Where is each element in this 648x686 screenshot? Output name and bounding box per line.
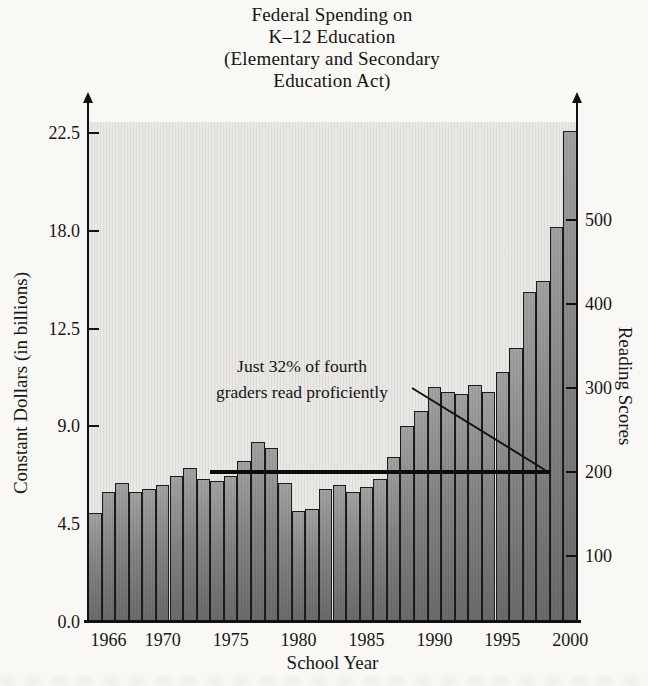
left-axis-arrow-icon xyxy=(83,92,93,103)
left-axis-tick-label-22.5: 22.5 xyxy=(14,122,80,144)
bar-2000 xyxy=(563,131,577,622)
x-axis-label-1990: 1990 xyxy=(404,629,464,651)
bar-1971 xyxy=(170,476,184,622)
bar-1978 xyxy=(265,448,279,622)
bar-1986 xyxy=(373,479,387,622)
bar-1983 xyxy=(333,485,347,622)
bar-1984 xyxy=(346,492,360,622)
right-axis-tick-300 xyxy=(566,387,577,389)
annotation-line-1: Just 32% of fourth xyxy=(187,353,417,379)
reading-scores-line xyxy=(210,470,550,474)
x-axis-label-1966: 1966 xyxy=(78,629,138,651)
bar-1999 xyxy=(550,227,564,622)
x-axis-baseline xyxy=(84,620,581,623)
bar-1993 xyxy=(468,385,482,622)
bar-1982 xyxy=(319,489,333,622)
bar-1996 xyxy=(509,348,523,622)
bar-1988 xyxy=(400,426,414,622)
bar-1972 xyxy=(183,468,197,622)
x-axis-label-1980: 1980 xyxy=(269,629,329,651)
right-axis-tick-label-100: 100 xyxy=(585,545,645,567)
left-axis-line xyxy=(87,97,89,622)
annotation-line-2: graders read proficiently xyxy=(187,379,417,405)
chart-title: Federal Spending on K–12 Education (Elem… xyxy=(32,4,632,92)
bar-1985 xyxy=(360,487,374,622)
chart-figure: Federal Spending on K–12 Education (Elem… xyxy=(0,0,648,686)
x-axis-label-1970: 1970 xyxy=(133,629,193,651)
x-axis-title: School Year xyxy=(88,652,577,674)
bar-1975 xyxy=(224,476,238,622)
bar-1992 xyxy=(455,394,469,622)
bar-1977 xyxy=(251,442,265,622)
right-axis-title: Reading Scores xyxy=(612,296,636,476)
x-axis-label-1985: 1985 xyxy=(336,629,396,651)
left-axis-tick-18.0 xyxy=(88,230,99,232)
right-axis-tick-100 xyxy=(566,555,577,557)
bar-1970 xyxy=(156,485,170,622)
chart-title-line-1: Federal Spending on xyxy=(32,4,632,26)
chart-title-line-3: (Elementary and Secondary xyxy=(32,48,632,70)
left-axis-tick-label-0.0: 0.0 xyxy=(14,611,80,633)
annotation-text: Just 32% of fourth graders read proficie… xyxy=(187,353,417,405)
bar-1997 xyxy=(523,292,537,622)
left-axis-tick-12.5 xyxy=(88,328,99,330)
bar-1980 xyxy=(292,511,306,622)
left-axis-tick-22.5 xyxy=(88,132,99,134)
bar-1974 xyxy=(210,481,224,622)
bar-1967 xyxy=(115,483,129,622)
bar-1987 xyxy=(387,457,401,622)
right-axis-arrow-icon xyxy=(572,92,582,103)
bar-1973 xyxy=(197,479,211,622)
bar-1994 xyxy=(482,392,496,622)
left-axis-title: Constant Dollars (in billions) xyxy=(10,203,34,563)
bar-1990 xyxy=(428,387,442,622)
right-axis-tick-200 xyxy=(566,471,577,473)
chart-title-line-2: K–12 Education xyxy=(32,26,632,48)
bar-1991 xyxy=(441,392,455,622)
right-axis-tick-label-500: 500 xyxy=(585,209,645,231)
bar-1966 xyxy=(102,492,116,622)
bar-1968 xyxy=(129,492,143,622)
bar-1998 xyxy=(536,281,550,622)
right-axis-tick-400 xyxy=(566,303,577,305)
right-axis-line xyxy=(576,97,578,622)
x-axis-label-1975: 1975 xyxy=(201,629,261,651)
bar-1981 xyxy=(305,509,319,622)
bar-1995 xyxy=(496,372,510,622)
bar-1989 xyxy=(414,411,428,622)
chart-title-line-4: Education Act) xyxy=(32,70,632,92)
bar-1965 xyxy=(88,513,102,622)
page-bottom-smudge xyxy=(0,677,648,686)
left-axis-tick-9.0 xyxy=(88,425,99,427)
right-axis-tick-500 xyxy=(566,219,577,221)
x-axis-label-1995: 1995 xyxy=(472,629,532,651)
x-axis-label-2000: 2000 xyxy=(540,629,600,651)
bar-1979 xyxy=(278,483,292,622)
bar-1969 xyxy=(142,489,156,622)
bar-1976 xyxy=(237,461,251,622)
